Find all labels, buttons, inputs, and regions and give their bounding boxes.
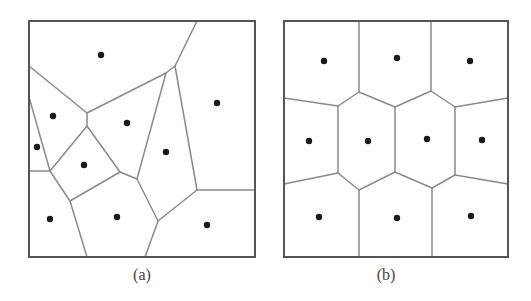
voronoi-edge [70, 201, 87, 257]
site-point [479, 137, 485, 143]
site-point [394, 215, 400, 221]
voronoi-edge [359, 172, 395, 190]
voronoi-edge [175, 21, 197, 66]
voronoi-edge [87, 73, 166, 113]
panel-a-irregular-voronoi [29, 21, 255, 257]
voronoi-edge [284, 98, 338, 106]
caption-b: (b) [366, 266, 406, 284]
site-point [34, 144, 40, 150]
site-point [306, 138, 312, 144]
voronoi-edge [455, 98, 508, 107]
site-point [114, 214, 120, 220]
site-point [98, 52, 104, 58]
site-point [365, 138, 371, 144]
voronoi-edge [120, 172, 137, 179]
site-point [424, 136, 430, 142]
voronoi-edge [175, 66, 197, 190]
voronoi-edge [166, 66, 175, 73]
site-point [204, 222, 210, 228]
panel-b-regular-voronoi [284, 21, 508, 257]
site-point [467, 58, 473, 64]
voronoi-edge [284, 173, 338, 184]
voronoi-edge [137, 179, 158, 221]
site-point [468, 213, 474, 219]
site-point [163, 149, 169, 155]
voronoi-edge [431, 91, 455, 107]
site-point [321, 58, 327, 64]
voronoi-edge [145, 221, 158, 257]
voronoi-edge [432, 175, 455, 188]
voronoi-edge [158, 190, 197, 221]
site-point [394, 55, 400, 61]
voronoi-edge [29, 97, 50, 171]
site-point [316, 214, 322, 220]
voronoi-edge [87, 126, 120, 172]
voronoi-edge [50, 171, 70, 201]
voronoi-edge [395, 172, 432, 188]
voronoi-edge [395, 91, 431, 107]
caption-a: (a) [122, 266, 162, 284]
site-point [214, 100, 220, 106]
voronoi-figure [0, 0, 531, 301]
voronoi-edge [70, 172, 120, 201]
voronoi-edge [338, 173, 359, 190]
site-point [124, 120, 130, 126]
site-point [50, 113, 56, 119]
panel-border [29, 21, 255, 257]
voronoi-edge [29, 66, 87, 113]
site-point [47, 216, 53, 222]
site-point [81, 162, 87, 168]
voronoi-edge [455, 175, 508, 184]
voronoi-edge [338, 92, 359, 106]
voronoi-edge [359, 92, 395, 107]
voronoi-edge [137, 73, 166, 179]
